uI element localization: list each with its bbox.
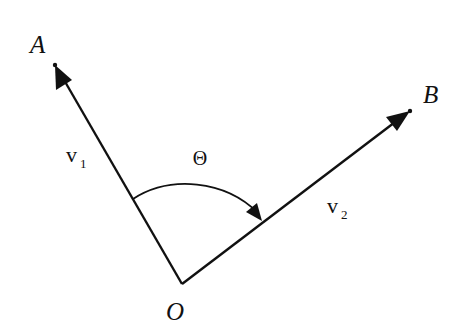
label-point-o: O [166,298,184,325]
arrowhead-a-icon [55,65,72,90]
arrowhead-b-icon [386,111,410,131]
label-vector-v1: v 1 [66,142,87,171]
label-vector-v2: v 2 [327,193,348,222]
vector-v2 [182,109,412,284]
angle-arc [133,184,262,221]
vector-angle-diagram: A B O Θ v 1 v 2 [0,0,466,335]
label-angle-theta: Θ [193,147,207,169]
vector-v1 [53,63,182,284]
svg-text:2: 2 [341,207,348,222]
point-b-dot [408,109,412,113]
arc-arrowhead-icon [246,203,262,221]
label-point-b: B [423,81,438,108]
svg-text:1: 1 [80,156,87,171]
label-point-a: A [28,31,46,58]
svg-text:v: v [327,193,338,218]
svg-text:v: v [66,142,77,167]
point-a-dot [53,63,57,67]
